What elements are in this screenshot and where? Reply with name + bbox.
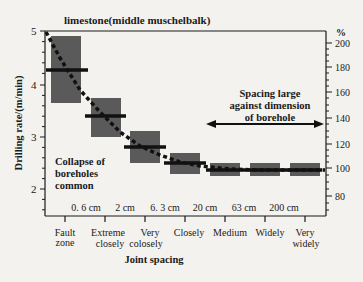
svg-text:160: 160 [335,87,350,98]
collapse-annotation: Collapse of boreholes common [55,156,105,191]
svg-text:0. 6 cm: 0. 6 cm [71,202,101,213]
y2-unit: % [336,27,346,38]
svg-text:180: 180 [335,62,350,73]
svg-text:3: 3 [31,131,37,143]
svg-text:Widely: Widely [255,227,284,238]
left-axis-labels: 5 4 3 2 [31,25,37,195]
svg-text:200: 200 [335,38,350,49]
svg-text:Very: Very [296,227,315,238]
right-axis-ticks [326,43,332,210]
svg-text:6. 3 cm: 6. 3 cm [150,202,180,213]
category-labels: Fault zone Extreme closely Very colosely… [55,227,320,249]
svg-text:of borehole: of borehole [245,112,296,123]
y-axis-label: Drilling rate/(m/min) [13,75,25,170]
svg-text:63 cm: 63 cm [232,202,257,213]
svg-text:100: 100 [335,163,350,174]
x-axis-ticks [65,216,305,222]
svg-text:Very: Very [141,227,160,238]
svg-text:2 cm: 2 cm [115,202,135,213]
left-axis-ticks [40,31,45,210]
svg-text:closely: closely [96,238,124,249]
svg-text:200 cm: 200 cm [269,202,299,213]
svg-text:boreholes: boreholes [55,168,98,179]
svg-text:zone: zone [56,237,75,248]
chart-title: limestone(middle muschelbalk) [64,14,211,27]
right-axis-labels: 200 180 160 140 120 100 80 [335,38,350,202]
svg-text:Collapse of: Collapse of [55,156,105,167]
spacing-labels: 0. 6 cm 2 cm 6. 3 cm 20 cm 63 cm 200 cm [71,202,299,213]
svg-text:80: 80 [335,191,345,202]
svg-text:Medium: Medium [213,227,247,238]
svg-text:5: 5 [31,25,37,37]
svg-text:4: 4 [31,79,37,91]
svg-text:Spacing large: Spacing large [240,88,301,99]
svg-text:Extreme: Extreme [91,227,125,238]
svg-text:120: 120 [335,139,350,150]
svg-text:against dimension: against dimension [230,100,311,111]
chart-svg: limestone(middle muschelbalk) % 5 4 3 2 … [0,0,363,282]
svg-text:colosely: colosely [129,238,162,249]
x-axis-label: Joint spacing [124,254,184,265]
svg-text:widely: widely [292,238,319,249]
svg-text:2: 2 [31,183,37,195]
svg-text:140: 140 [335,113,350,124]
svg-text:common: common [55,180,94,191]
spacing-annotation: Spacing large against dimension of boreh… [230,88,311,123]
svg-text:Closely: Closely [174,227,205,238]
svg-text:20 cm: 20 cm [193,202,218,213]
